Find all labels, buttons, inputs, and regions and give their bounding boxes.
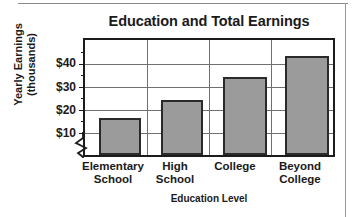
x-tick-label-beyond-college: Beyond College: [265, 160, 335, 186]
bar-high-school[interactable]: [161, 100, 203, 155]
bar-college[interactable]: [223, 77, 267, 155]
y-tick-label-40: $40: [42, 56, 76, 70]
x-label-line1: High: [145, 160, 205, 173]
x-label-line2: College: [265, 173, 335, 186]
plot-area: [83, 38, 335, 157]
y-axis-title: Yearly Earnings (thousands): [12, 13, 37, 117]
page-top-rule: [18, 3, 348, 4]
axis-break-icon: [74, 132, 90, 158]
chart-title: Education and Total Earnings: [83, 13, 335, 29]
y-tick-label-20: $20: [42, 103, 76, 117]
x-label-line2: School: [78, 173, 148, 186]
y-axis-title-line1: Yearly Earnings: [12, 23, 24, 106]
y-tick-label-10: $10: [42, 126, 76, 140]
y-tick-label-30: $30: [42, 80, 76, 94]
y-axis-title-line2: (thousands): [24, 33, 36, 96]
bar-beyond-college[interactable]: [285, 56, 329, 155]
x-label-line2: School: [145, 173, 205, 186]
x-label-line1: Elementary: [78, 160, 148, 173]
page-right-rule: [345, 3, 346, 217]
bars-layer: [85, 40, 333, 155]
x-tick-label-high-school: High School: [145, 160, 205, 186]
x-label-line1: Beyond: [265, 160, 335, 173]
x-tick-label-elementary-school: Elementary School: [78, 160, 148, 186]
x-axis-title: Education Level: [83, 193, 335, 204]
x-label-line1: College: [203, 160, 267, 173]
bar-elementary-school[interactable]: [99, 118, 141, 155]
x-tick-label-college: College: [203, 160, 267, 173]
